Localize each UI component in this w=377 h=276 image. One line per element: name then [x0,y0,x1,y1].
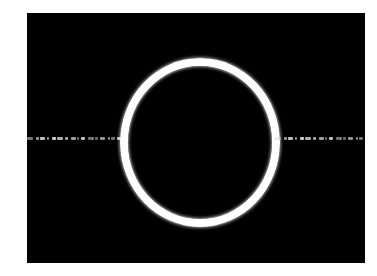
white-ring [120,58,280,227]
dotted-band-right [275,137,365,140]
black-frame [27,13,365,263]
dotted-band-left [27,137,121,140]
